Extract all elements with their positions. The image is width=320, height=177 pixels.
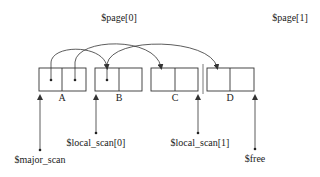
gc-memory-diagram: $page[0] $page[1] A B C D $major_scan $l…	[0, 0, 320, 177]
block-c	[151, 68, 198, 91]
pointer-local-scan-1	[197, 97, 200, 134]
pointer-label-major-scan: $major_scan	[14, 154, 65, 165]
block-label-c: C	[172, 92, 179, 103]
block-label-a: A	[58, 92, 66, 103]
pointer-free	[254, 97, 257, 150]
pointer-major-scan	[39, 97, 42, 151]
block-d	[207, 68, 254, 91]
page-label-1: $page[1]	[272, 12, 308, 23]
block-label-d: D	[226, 92, 233, 103]
ref-arc-a-to-c	[75, 44, 161, 80]
block-b	[95, 68, 142, 91]
pointer-local-scan-0	[95, 97, 98, 134]
block-a	[39, 68, 86, 91]
pointer-label-local-scan-0: $local_scan[0]	[67, 137, 126, 148]
block-label-b: B	[116, 92, 123, 103]
pointer-label-free: $free	[245, 153, 266, 164]
pointer-label-local-scan-1: $local_scan[1]	[171, 137, 230, 148]
ref-arc-b-to-d	[107, 44, 217, 80]
page-label-0: $page[0]	[101, 12, 137, 23]
